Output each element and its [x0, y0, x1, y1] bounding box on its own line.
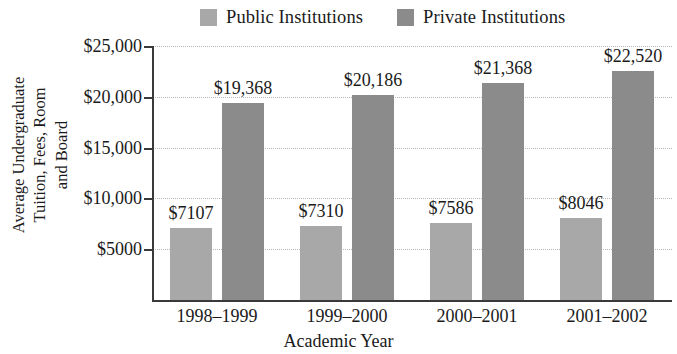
y-axis-tick-label: $10,000 [84, 188, 143, 209]
y-axis-tick-label: $5000 [97, 239, 142, 260]
x-axis-title: Academic Year [0, 331, 677, 352]
bar-value-label: $7586 [429, 198, 474, 219]
bar-value-label: $7310 [299, 201, 344, 222]
x-axis-tick-label: 2000–2001 [437, 306, 518, 327]
bar-public [560, 218, 602, 300]
legend-label-private: Private Institutions [423, 8, 565, 27]
bar-value-label: $8046 [559, 193, 604, 214]
bar-private [222, 103, 264, 300]
bar-value-label: $19,368 [214, 78, 273, 99]
legend-item-private: Private Institutions [397, 8, 565, 27]
x-axis-tick-label: 1998–1999 [177, 306, 258, 327]
x-axis-line [152, 300, 672, 302]
bars-container: $7107$19,368$7310$20,186$7586$21,368$804… [152, 46, 672, 300]
y-axis-tick-label: $25,000 [84, 36, 143, 57]
bar-public [300, 226, 342, 300]
legend-swatch-public-icon [200, 9, 217, 26]
bar-value-label: $22,520 [604, 46, 663, 67]
x-axis-tick-label: 2001–2002 [567, 306, 648, 327]
legend-swatch-private-icon [397, 9, 414, 26]
x-axis-tick-label: 1999–2000 [307, 306, 388, 327]
bar-private [612, 71, 654, 300]
chart-legend: Public Institutions Private Institutions [200, 2, 660, 32]
y-axis-tick-label: $20,000 [84, 86, 143, 107]
bar-private [352, 95, 394, 300]
legend-label-public: Public Institutions [226, 8, 363, 27]
bar-public [170, 228, 212, 300]
bar-value-label: $7107 [169, 203, 214, 224]
bar-public [430, 223, 472, 300]
bar-private [482, 83, 524, 300]
plot-area: $7107$19,368$7310$20,186$7586$21,368$804… [152, 46, 672, 300]
legend-item-public: Public Institutions [200, 8, 363, 27]
bar-value-label: $20,186 [344, 70, 403, 91]
y-axis-tick-label: $15,000 [84, 137, 143, 158]
bar-chart: Public Institutions Private Institutions… [0, 0, 677, 354]
y-axis-tick-labels: $5000$10,000$15,000$20,000$25,000 [0, 46, 142, 301]
bar-value-label: $21,368 [474, 58, 533, 79]
